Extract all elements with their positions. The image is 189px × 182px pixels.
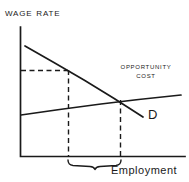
y-axis-title: Wage Rate bbox=[5, 6, 60, 18]
opportunity-cost-label: OpportunityCost bbox=[110, 63, 182, 80]
diagram-canvas bbox=[0, 0, 189, 182]
x-axis-title: Employment bbox=[111, 165, 177, 177]
opportunity-cost-label-line2: Cost bbox=[110, 72, 182, 81]
demand-curve-label: D bbox=[148, 108, 157, 122]
economics-diagram: Wage Rate OpportunityCost D Employment bbox=[0, 0, 189, 182]
opportunity-cost-label-line1: Opportunity bbox=[121, 62, 172, 71]
